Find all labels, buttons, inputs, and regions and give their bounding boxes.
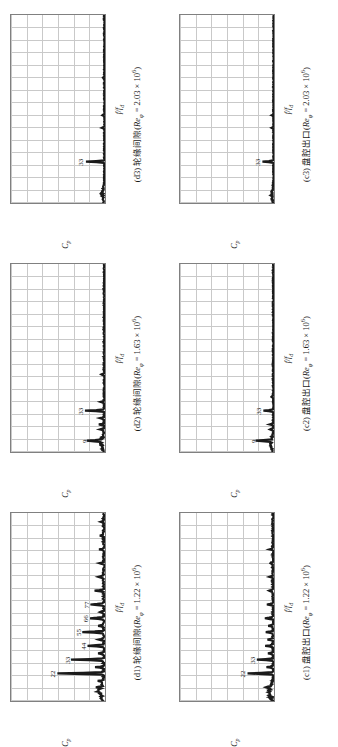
y-tick-label: 0 (271, 453, 276, 454)
y-tick-label: 0.6 (179, 204, 184, 205)
gridline-horizontal (274, 265, 275, 453)
y-tick-label: 0.5 (192, 702, 199, 703)
x-tick-label: 10 (105, 188, 106, 195)
panel-grid: Cp00.10.20.30.40.50.60102030405060708090… (0, 0, 338, 747)
chart-panel-d1: Cp00.10.20.30.40.50.60102030405060708090… (0, 498, 169, 747)
caption-symbol: Re (301, 367, 311, 376)
x-tick-label: 70 (105, 113, 106, 120)
y-axis-label: Cp (230, 489, 241, 498)
y-tick-label: 0.4 (39, 453, 46, 454)
caption-symbol: Re (132, 616, 142, 625)
x-tick-label: 20 (105, 424, 106, 431)
x-tick-label: 140 (105, 521, 106, 531)
caption-suffix: ) (301, 316, 311, 319)
x-tick-label: 130 (274, 285, 275, 295)
x-tick-label: 80 (105, 598, 106, 605)
x-tick-label: 140 (274, 23, 275, 33)
x-tick-label: 50 (274, 138, 275, 145)
x-tick-label: 110 (274, 61, 275, 71)
panel-caption-c2: (c2) 盘腔出口(Reφ = 1.63 × 106) (299, 316, 313, 431)
spectrum-trace (180, 514, 274, 702)
plot-d1: Cp00.10.20.30.40.50.60102030405060708090… (6, 509, 126, 737)
y-axis-label-main: C (230, 493, 239, 498)
x-tick-label: 130 (105, 285, 106, 295)
x-tick-label: 90 (105, 87, 106, 94)
peak-label: 33 (255, 159, 262, 166)
peak-label: 44 (81, 643, 88, 650)
x-tick-label: 40 (105, 648, 106, 655)
x-tick-label: 70 (105, 362, 106, 369)
x-tick-label: 110 (274, 559, 275, 569)
x-axis-label: f/fd (284, 264, 294, 454)
x-tick-label: 0 (274, 451, 275, 454)
y-tick-label: 0.3 (224, 453, 231, 454)
y-tick-label: 0 (102, 453, 107, 454)
peak-label: 33 (65, 657, 72, 664)
y-tick-label: 0.1 (255, 204, 262, 205)
plot-c1: Cp00.10.20.30.40.50.60102030405060708090… (175, 509, 295, 737)
y-tick-label: 0.4 (39, 702, 46, 703)
x-axis-label-main: f/f (114, 108, 123, 115)
x-tick-label: 50 (274, 387, 275, 394)
x-tick-label: 140 (274, 272, 275, 282)
x-tick-label: 40 (274, 399, 275, 406)
panel-caption-c3: (c3) 盘腔出口(Reφ = 2.03 × 106) (299, 67, 313, 182)
x-axis-label-main: f/f (283, 606, 292, 613)
y-tick-label: 0 (271, 702, 276, 703)
peak-label: 33 (256, 408, 263, 415)
chart-panel-d2: Cp00.10.20.30.40.50.60102030405060708090… (0, 249, 169, 498)
chart-panel-c2: Cp00.10.20.30.40.50.60102030405060708090… (169, 249, 338, 498)
caption-suffix: ) (132, 67, 142, 70)
y-axis-label: Cp (230, 240, 241, 249)
y-tick-label: 0.6 (179, 453, 184, 454)
x-tick-label: 90 (274, 87, 275, 94)
y-tick-label: 0.2 (70, 204, 77, 205)
x-tick-label: 70 (274, 362, 275, 369)
x-tick-label: 150 (274, 264, 275, 270)
x-tick-label: 40 (274, 150, 275, 157)
x-tick-label: 10 (274, 686, 275, 693)
x-tick-label: 150 (105, 264, 106, 270)
caption-prefix: (c3) 盘腔出口( (301, 127, 311, 182)
y-tick-label: 0.1 (255, 702, 262, 703)
x-axis-label: f/fd (284, 513, 294, 703)
y-tick-label: 0.4 (208, 702, 215, 703)
x-axis-label-sub: d (288, 354, 294, 357)
plot-c2: Cp00.10.20.30.40.50.60102030405060708090… (175, 260, 295, 488)
x-axis-label: f/fd (115, 264, 125, 454)
caption-value: = 1.22 × 10 (301, 571, 311, 612)
peak-label: 77 (84, 602, 91, 609)
x-axis-label-main: f/f (114, 357, 123, 364)
caption-value: = 2.03 × 10 (301, 73, 311, 114)
x-tick-label: 110 (274, 310, 275, 320)
y-axis-label-sub: p (234, 241, 240, 244)
y-tick-label: 0.6 (10, 702, 15, 703)
peak-label: 22 (240, 670, 247, 677)
x-tick-label: 120 (105, 48, 106, 58)
x-tick-label: 100 (105, 322, 106, 332)
x-tick-label: 20 (274, 673, 275, 680)
x-tick-label: 150 (105, 513, 106, 519)
caption-symbol: Re (132, 367, 142, 376)
gridline-horizontal (274, 514, 275, 702)
x-tick-label: 30 (274, 412, 275, 419)
caption-subscript: φ (306, 115, 313, 119)
caption-symbol: Re (301, 118, 311, 127)
y-tick-label: 0.2 (239, 204, 246, 205)
y-tick-label: 0.3 (55, 702, 62, 703)
spectrum-trace (11, 265, 105, 453)
x-tick-label: 0 (274, 202, 275, 205)
y-tick-label: 0 (102, 204, 107, 205)
chart-panel-c1: Cp00.10.20.30.40.50.60102030405060708090… (169, 498, 338, 747)
x-axis-label-main: f/f (283, 108, 292, 115)
caption-suffix: ) (132, 565, 142, 568)
plot-area-d2: 00.10.20.30.40.50.6010203040506070809010… (10, 264, 106, 454)
x-tick-label: 60 (274, 125, 275, 132)
y-axis-label: Cp (61, 240, 72, 249)
y-tick-label: 0.3 (224, 204, 231, 205)
x-tick-label: 20 (274, 424, 275, 431)
plot-area-d1: 00.10.20.30.40.50.6010203040506070809010… (10, 513, 106, 703)
x-tick-label: 10 (274, 188, 275, 195)
y-tick-label: 0.3 (55, 453, 62, 454)
x-tick-label: 110 (105, 310, 106, 320)
